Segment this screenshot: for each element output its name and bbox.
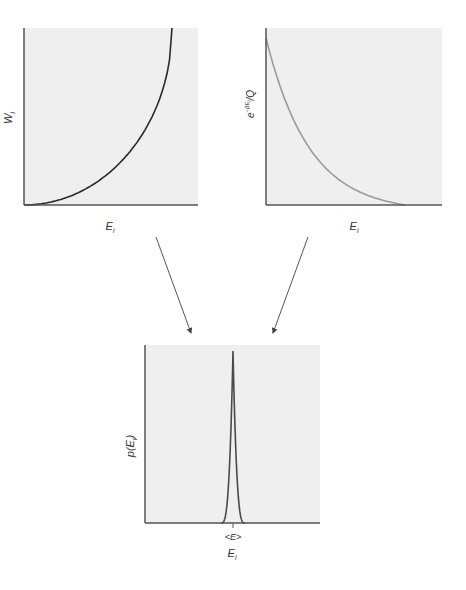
y-axis-label: p(Ei) [124,434,138,458]
panel-probability: <E> Ei p(Ei) [124,345,320,561]
y-axis-label: e−βEi/Q [244,90,256,118]
panel-boltzmann-factor: Ei e−βEi/Q [244,28,442,234]
y-axis-label: Wi [2,112,16,124]
x-axis-label: Ei [228,547,237,561]
arrow-left [156,237,191,333]
arrow-right [273,237,308,333]
panel-degeneracy: Ei Wi [2,28,198,234]
diagram-canvas: Ei Wi Ei e−βEi/Q <E> Ei p(Ei) [0,0,466,590]
x-axis-label: Ei [350,220,359,234]
x-axis-label: Ei [106,220,115,234]
mean-energy-tick-label: <E> [225,532,242,542]
panel-background [24,28,198,205]
